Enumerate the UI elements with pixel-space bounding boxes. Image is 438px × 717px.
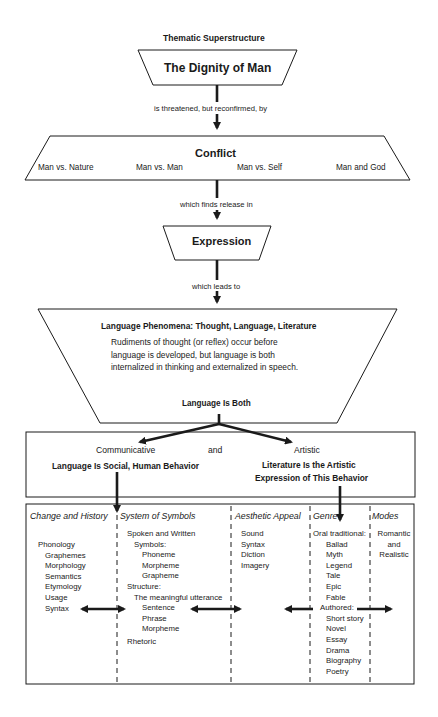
column-heading-aesthetic-appeal: Aesthetic Appeal <box>235 512 301 521</box>
list-item: Poetry <box>313 667 366 678</box>
column-heading-genre: Genre <box>313 512 337 521</box>
system-symbols-list: Spoken and Written Symbols: Phoneme Morp… <box>127 529 222 648</box>
conflict-type: Man and God <box>336 164 386 172</box>
list-item: Tale <box>313 571 366 582</box>
conflict-type: Man vs. Man <box>136 164 183 172</box>
list-item: Syntax <box>38 604 86 615</box>
list-item: Short story <box>313 614 366 625</box>
conflict-type: Man vs. Nature <box>38 164 94 172</box>
list-item: Oral traditional: <box>313 529 366 540</box>
list-item: Sound <box>241 529 269 540</box>
list-item: Morphology <box>38 561 86 572</box>
list-item: Symbols: <box>127 540 222 551</box>
list-item: Fable <box>313 593 366 604</box>
list-item: The meaningful utterance <box>127 593 222 604</box>
literature-label-line2: Expression of This Behavior <box>255 474 368 482</box>
list-item: Authored: <box>313 603 366 614</box>
list-item: Structure: <box>127 582 222 593</box>
list-item: Graphemes <box>38 551 86 562</box>
list-item: Myth <box>313 550 366 561</box>
literature-label-line1: Literature Is the Artistic <box>262 461 356 469</box>
list-item: Drama <box>313 646 366 657</box>
conflict-type: Man vs. Self <box>237 164 282 172</box>
conflict-label: Conflict <box>195 148 236 159</box>
and-label: and <box>208 446 222 455</box>
social-behavior-label: Language Is Social, Human Behavior <box>52 462 199 470</box>
list-item: Phoneme <box>127 550 222 561</box>
expression-label: Expression <box>192 236 251 247</box>
list-item: Sentence <box>127 603 222 614</box>
list-item: Imagery <box>241 561 269 572</box>
connector-threatened: is threatened, but reconfirmed, by <box>152 105 269 113</box>
list-item: Spoken and Written <box>127 529 222 540</box>
list-item: Etymology <box>38 582 86 593</box>
list-item: Rhetoric <box>127 637 222 648</box>
list-item: Novel <box>313 624 366 635</box>
phenomena-heading: Language Phenomena: Thought, Language, L… <box>101 322 316 330</box>
communicative-label: Communicative <box>96 446 155 455</box>
list-item: Epic <box>313 582 366 593</box>
aesthetic-appeal-list: Sound Syntax Diction Imagery <box>241 529 269 571</box>
column-heading-system-symbols: System of Symbols <box>120 512 195 521</box>
genre-list: Oral traditional: Ballad Myth Legend Tal… <box>313 529 366 677</box>
list-item: Ballad <box>313 540 366 551</box>
connector-leads: which leads to <box>190 283 242 291</box>
list-item: Morpheme <box>127 624 222 635</box>
column-heading-modes: Modes <box>372 512 398 521</box>
list-item: Romantic <box>376 529 412 540</box>
list-item: Semantics <box>38 572 86 583</box>
list-item: Legend <box>313 561 366 572</box>
list-item: Usage <box>38 593 86 604</box>
change-history-list: Phonology Graphemes Morphology Semantics… <box>38 540 86 614</box>
list-item: and <box>376 540 412 551</box>
list-item: Grapheme <box>127 571 222 582</box>
list-item: Realistic <box>376 550 412 561</box>
list-item: Essay <box>313 635 366 646</box>
phenomena-footer: Language Is Both <box>182 400 251 408</box>
connector-release: which finds release in <box>178 201 255 209</box>
list-item: Syntax <box>241 540 269 551</box>
list-item: Phonology <box>38 540 86 551</box>
dignity-label: The Dignity of Man <box>164 62 271 74</box>
list-item: Morpheme <box>127 561 222 572</box>
list-item: Biography <box>313 656 366 667</box>
phenomena-body: Rudiments of thought (or reflex) occur b… <box>111 336 311 374</box>
artistic-label: Artistic <box>294 446 320 455</box>
list-item: Phrase <box>127 614 222 625</box>
diagram-title: Thematic Superstructure <box>163 34 265 43</box>
column-heading-change-history: Change and History <box>30 512 108 521</box>
list-item: Diction <box>241 550 269 561</box>
modes-list: Romantic and Realistic <box>376 529 412 561</box>
